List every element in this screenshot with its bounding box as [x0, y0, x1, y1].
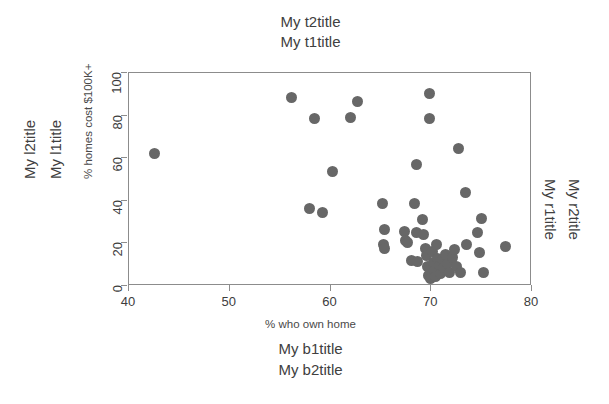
x-axis-tick — [430, 285, 431, 291]
top-margin-titles: My t2title My t1title — [48, 14, 573, 54]
data-point — [286, 92, 297, 103]
data-point — [149, 148, 160, 159]
y-axis-tick-label: 20 — [110, 242, 125, 256]
y-axis-tick-label: 100 — [110, 72, 125, 94]
x-axis-tick-label: 60 — [322, 294, 336, 309]
right-outer-title: My r2title — [567, 179, 582, 240]
x-axis-label: % who own home — [48, 318, 573, 330]
x-axis-tick-label: 40 — [121, 294, 135, 309]
y-axis-label: % homes cost $100K+ — [82, 63, 94, 178]
top-inner-title: My t1title — [48, 34, 573, 49]
x-axis-tick — [531, 285, 532, 291]
data-point — [345, 112, 356, 123]
y-axis-tick-label: 80 — [110, 115, 125, 129]
data-point — [461, 239, 472, 250]
data-point — [379, 243, 390, 254]
data-point — [352, 96, 363, 107]
left-inner-title: My l1title — [48, 119, 63, 178]
data-point — [478, 267, 489, 278]
data-point — [453, 143, 464, 154]
data-point — [431, 239, 442, 250]
top-outer-title: My t2title — [48, 14, 573, 29]
y-axis-tick-label: 0 — [110, 285, 125, 292]
data-points-layer — [129, 73, 530, 284]
data-point — [379, 224, 390, 235]
data-point — [474, 247, 485, 258]
right-margin-titles: My r1title My r2title — [536, 72, 609, 285]
left-outer-title: My l2title — [22, 119, 37, 178]
data-point — [377, 198, 388, 209]
plot-panel — [128, 72, 531, 285]
data-point — [417, 214, 428, 225]
data-point — [500, 241, 511, 252]
left-margin-titles: My l2title My l1title — [0, 72, 62, 285]
right-inner-title: My r1title — [543, 179, 558, 240]
bottom-margin-titles: My b1title My b2title — [48, 341, 573, 383]
x-axis-tick-label: 70 — [423, 294, 437, 309]
scatter-plot-figure: My t2title My t1title My l2title My l1ti… — [0, 0, 609, 404]
y-axis-tick-label: 40 — [110, 200, 125, 214]
data-point — [402, 237, 413, 248]
data-point — [327, 166, 338, 177]
data-point — [409, 198, 420, 209]
data-point — [472, 227, 483, 238]
data-point — [317, 207, 328, 218]
data-point — [309, 113, 320, 124]
data-point — [424, 113, 435, 124]
data-point — [418, 229, 429, 240]
data-point — [449, 244, 460, 255]
data-point — [424, 88, 435, 99]
x-axis-tick-label: 80 — [524, 294, 538, 309]
data-point — [455, 267, 466, 278]
bottom-inner-title: My b1title — [48, 341, 573, 356]
x-axis-tick-label: 50 — [222, 294, 236, 309]
data-point — [304, 203, 315, 214]
data-point — [476, 213, 487, 224]
y-axis-tick-label: 60 — [110, 157, 125, 171]
x-axis-tick — [128, 285, 129, 291]
bottom-outer-title: My b2title — [48, 362, 573, 377]
data-point — [460, 187, 471, 198]
x-axis-tick — [229, 285, 230, 291]
y-axis-label-wrap: % homes cost $100K+ — [68, 72, 84, 285]
data-point — [411, 159, 422, 170]
x-axis-tick — [330, 285, 331, 291]
